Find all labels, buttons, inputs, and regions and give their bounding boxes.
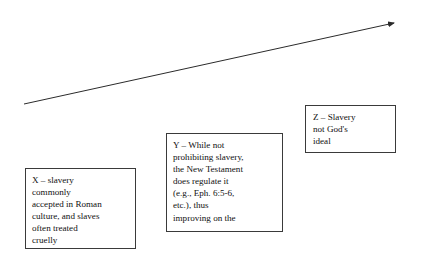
note-box-z[interactable]: Z – Slavery not God's ideal <box>305 105 396 153</box>
note-box-x-text: X – slavery commonly accepted in Roman c… <box>26 169 135 247</box>
note-box-x[interactable]: X – slavery commonly accepted in Roman c… <box>25 168 136 249</box>
arrow-line <box>24 23 394 104</box>
note-box-y[interactable]: Y – While not prohibiting slavery, the N… <box>166 133 283 232</box>
note-box-y-text: Y – While not prohibiting slavery, the N… <box>167 134 282 224</box>
note-box-z-text: Z – Slavery not God's ideal <box>306 106 395 147</box>
diagram-canvas: X – slavery commonly accepted in Roman c… <box>0 0 422 263</box>
